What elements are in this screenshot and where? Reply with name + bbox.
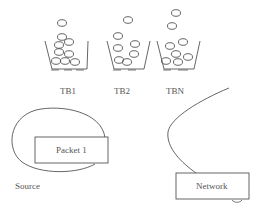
network-curve	[168, 88, 229, 173]
bucket-label-tbn: TBN	[166, 86, 184, 96]
network-label: Network	[196, 181, 228, 191]
token-bucket-2	[107, 17, 150, 70]
token-bucket-n	[157, 10, 200, 70]
bucket-label-tb1: TB1	[60, 86, 76, 96]
bucket-label-tb2: TB2	[114, 86, 130, 96]
packet-label: Packet 1	[56, 145, 87, 155]
source-label: Source	[15, 181, 40, 191]
token-bucket-1	[45, 20, 88, 70]
